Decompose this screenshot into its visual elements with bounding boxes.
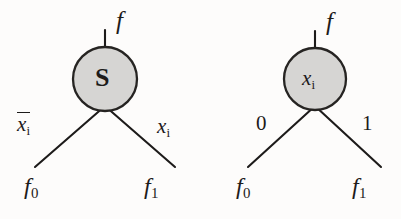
leaf-label-left-variable-subscript: 0 (243, 185, 251, 201)
leaf-label-right-variable-subscript: 1 (359, 185, 367, 201)
edge-label-left-shannon-base: x (17, 112, 26, 136)
root-function-label-shannon: f (116, 8, 123, 33)
leaf-label-right-shannon-base: f (144, 173, 151, 199)
leaf-label-left-variable: f0 (236, 174, 250, 201)
edge-label-right-shannon-base: x (157, 114, 166, 138)
leaf-label-left-shannon: f0 (24, 174, 38, 201)
variable-node-label-base: x (302, 66, 311, 90)
edge-label-right-variable: 1 (362, 113, 373, 134)
leaf-label-left-shannon-base: f (24, 173, 31, 199)
shannon-node-diagram (35, 30, 175, 167)
diagram-svg (0, 0, 401, 219)
edge-label-left-variable: 0 (256, 113, 267, 134)
leaf-label-left-shannon-subscript: 0 (31, 185, 39, 201)
variable-node-diagram (248, 31, 381, 167)
edge-label-left-shannon-subscript: i (26, 123, 30, 138)
edge-label-right-shannon-subscript: i (166, 125, 170, 140)
branch-edge-left-shannon (35, 106, 105, 167)
edge-label-left-shannon: xi (17, 112, 30, 137)
edge-label-right-shannon: xi (157, 116, 170, 139)
shannon-node-label: S (95, 65, 109, 91)
leaf-label-left-variable-base: f (236, 173, 243, 199)
root-function-label-variable: f (326, 9, 333, 34)
leaf-label-right-shannon-subscript: 1 (151, 185, 159, 201)
variable-node-label-subscript: i (311, 77, 315, 92)
leaf-label-right-variable: f1 (352, 174, 366, 201)
edge-label-left-shannon-overline: xi (17, 112, 30, 137)
leaf-label-right-variable-base: f (352, 173, 359, 199)
variable-node-label: xi (302, 68, 315, 91)
figure-canvas: f S xi xi f0 f1 f xi 0 1 f0 f1 (0, 0, 401, 219)
leaf-label-right-shannon: f1 (144, 174, 158, 201)
